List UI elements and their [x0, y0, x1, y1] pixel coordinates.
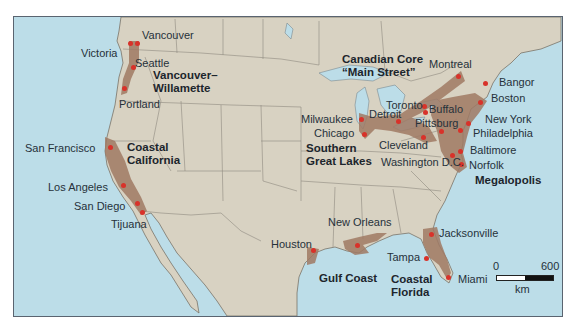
scale-unit-label: km — [515, 283, 530, 295]
scale-max-label: 600 — [541, 260, 559, 272]
region-label: Gulf Coast — [319, 272, 377, 285]
scale-bar: 0 600 km — [491, 260, 563, 300]
city-dot — [478, 100, 483, 105]
city-dot — [135, 41, 140, 46]
city-dot — [359, 117, 364, 122]
city-label: Jacksonville — [439, 227, 498, 239]
city-dot — [429, 232, 434, 237]
city-dot — [108, 145, 113, 150]
region-label: Vancouver– Willamette — [153, 69, 218, 95]
city-dot — [458, 149, 463, 154]
city-dot — [466, 121, 471, 126]
region-label: Coastal Florida — [391, 273, 433, 299]
city-dot — [422, 104, 427, 109]
city-label: Baltimore — [470, 144, 516, 156]
city-label: Norfolk — [469, 159, 504, 171]
scale-bar-graphic — [496, 275, 554, 281]
city-dot — [140, 210, 145, 215]
city-label: San Diego — [74, 200, 125, 212]
city-label: Miami — [458, 273, 487, 285]
city-label: Chicago — [314, 127, 354, 139]
region-label: Coastal California — [127, 141, 180, 167]
city-dot — [458, 128, 463, 133]
city-dot — [121, 183, 126, 188]
city-label: San Francisco — [25, 142, 95, 154]
city-label: Cleveland — [379, 139, 428, 151]
city-label: Tijuana — [111, 218, 147, 230]
map-frame: VictoriaVancouverSeattlePortlandSan Fran… — [13, 16, 563, 317]
city-dot — [456, 74, 461, 79]
region-label: Canadian Core “Main Street” — [342, 53, 423, 79]
city-label: Houston — [271, 238, 312, 250]
city-label: Tampa — [387, 251, 420, 263]
city-label: Vancouver — [142, 29, 194, 41]
region-label: Southern Great Lakes — [306, 142, 372, 168]
city-label: Montreal — [429, 58, 472, 70]
city-dot — [362, 132, 367, 137]
city-label: Washington D.C. — [381, 156, 464, 168]
city-label: Buffalo — [429, 103, 463, 115]
region-label: Megalopolis — [475, 174, 541, 187]
city-dot — [423, 110, 428, 115]
city-label: New York — [485, 113, 531, 125]
city-label: Philadelphia — [473, 127, 533, 139]
city-dot — [446, 275, 451, 280]
city-dot — [483, 81, 488, 86]
city-label: Milwaukee — [301, 113, 353, 125]
city-dot — [424, 256, 429, 261]
city-label: Los Angeles — [48, 181, 108, 193]
city-dot — [355, 243, 360, 248]
city-label: New Orleans — [328, 216, 392, 228]
city-dot — [439, 129, 444, 134]
city-label: Victoria — [81, 47, 117, 59]
city-dot — [122, 86, 127, 91]
city-label: Portland — [119, 98, 160, 110]
city-label: Seattle — [135, 57, 169, 69]
scale-min-label: 0 — [493, 260, 499, 272]
city-dot — [128, 41, 133, 46]
city-dot — [135, 201, 140, 206]
city-label: Pittsburg — [415, 117, 458, 129]
city-label: Detroit — [369, 108, 401, 120]
city-label: Boston — [491, 92, 525, 104]
city-label: Bangor — [499, 76, 534, 88]
